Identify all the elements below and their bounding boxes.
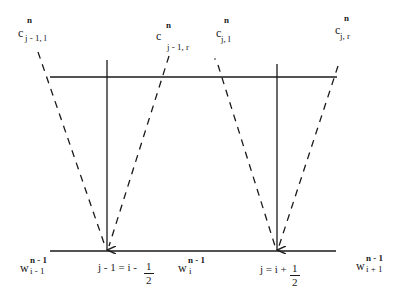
label-sup: n - 1 [30, 256, 47, 265]
fraction-numerator: 1 [290, 263, 300, 276]
label-sup: n [27, 16, 32, 25]
fraction-denominator: 2 [292, 276, 298, 288]
dashed-characteristic-left-r [109, 56, 169, 246]
label-sub: j - 1, l [25, 34, 47, 43]
fraction-one-half: 1 2 [144, 261, 154, 286]
label-sup: n - 1 [366, 254, 383, 263]
label-base: w [356, 260, 365, 272]
label-sub: j, r [340, 32, 350, 41]
label-sub: i [189, 267, 192, 276]
label-base: w [178, 262, 187, 274]
dashed-characteristic-left-l [38, 52, 105, 246]
label-sup: n [224, 16, 229, 25]
label-sub: j - 1, r [167, 43, 189, 52]
label-base: c [156, 30, 161, 42]
label-sup: n - 1 [188, 256, 205, 265]
fraction-denominator: 2 [146, 274, 152, 286]
dashed-characteristic-right-r [279, 66, 338, 246]
label-base: w [20, 262, 29, 274]
dashed-characteristic-right-l [218, 65, 275, 246]
label-sup: n [166, 21, 171, 30]
label-sub: i - 1 [30, 267, 45, 276]
interface-lhs: j = i + [260, 264, 287, 275]
fraction-numerator: 1 [144, 261, 154, 274]
fraction-one-half: 1 2 [290, 263, 300, 288]
stray-dot [214, 58, 216, 60]
label-sub: j, l [221, 35, 231, 44]
interface-lhs: j - 1 = i - [98, 262, 137, 273]
label-base: c [18, 27, 23, 39]
label-sub: i + 1 [366, 265, 383, 274]
label-sup: n [344, 14, 349, 23]
